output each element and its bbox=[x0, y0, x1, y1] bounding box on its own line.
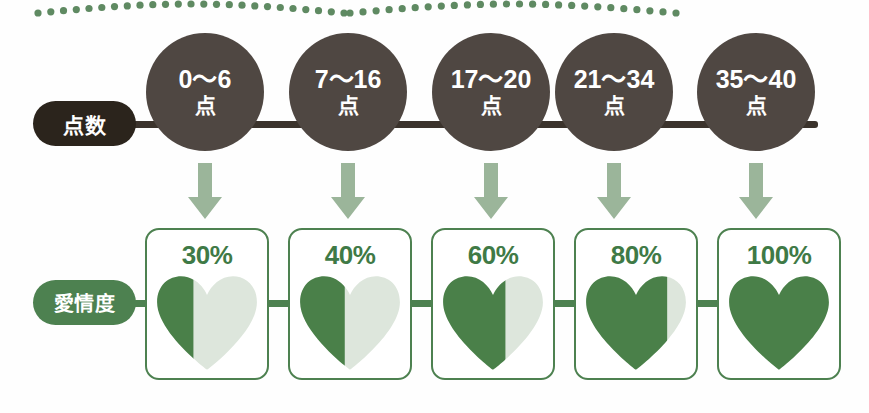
score-bucket-3[interactable]: 17〜20 点 bbox=[432, 33, 550, 151]
score-bucket-3-range: 17〜20 bbox=[451, 66, 532, 92]
love-card-5-percent: 100% bbox=[747, 242, 812, 268]
down-arrow-1 bbox=[188, 163, 222, 219]
love-card-2[interactable]: 40% bbox=[288, 228, 412, 380]
score-bucket-1-range: 0〜6 bbox=[179, 66, 232, 92]
down-arrow-3 bbox=[474, 163, 508, 219]
love-card-3-percent: 60% bbox=[468, 242, 519, 268]
down-arrow-5 bbox=[739, 163, 773, 219]
score-bucket-2-range: 7〜16 bbox=[315, 66, 382, 92]
love-card-4[interactable]: 80% bbox=[574, 228, 698, 380]
score-bucket-3-unit: 点 bbox=[481, 93, 502, 118]
love-card-1[interactable]: 30% bbox=[145, 228, 269, 380]
score-bucket-1[interactable]: 0〜6 点 bbox=[146, 33, 264, 151]
down-arrow-4 bbox=[597, 163, 631, 219]
love-row-label: 愛情度 bbox=[33, 280, 136, 325]
score-row: 点数 0〜6 点 7〜16 点 17〜20 点 21〜34 点 35〜40 点 bbox=[0, 33, 869, 151]
down-arrow-2 bbox=[331, 163, 365, 219]
score-bucket-5-range: 35〜40 bbox=[716, 66, 797, 92]
score-row-label-text: 点数 bbox=[63, 109, 107, 139]
heart-icon-4 bbox=[584, 274, 688, 370]
love-card-3[interactable]: 60% bbox=[431, 228, 555, 380]
love-row-label-text: 愛情度 bbox=[54, 288, 116, 317]
love-row: 愛情度 30% 40% bbox=[0, 228, 869, 380]
heart-icon-2 bbox=[298, 274, 402, 370]
dotted-arc-left bbox=[0, 0, 869, 26]
score-bucket-4-unit: 点 bbox=[604, 93, 625, 118]
score-bucket-5[interactable]: 35〜40 点 bbox=[697, 33, 815, 151]
score-bucket-4-range: 21〜34 bbox=[574, 66, 655, 92]
love-card-4-percent: 80% bbox=[611, 242, 662, 268]
love-card-1-percent: 30% bbox=[182, 242, 233, 268]
infographic-root: 点数 0〜6 点 7〜16 点 17〜20 点 21〜34 点 35〜40 点 bbox=[0, 0, 869, 413]
score-bucket-5-unit: 点 bbox=[746, 93, 767, 118]
score-bucket-1-unit: 点 bbox=[195, 93, 216, 118]
score-bucket-2-unit: 点 bbox=[338, 93, 359, 118]
heart-icon-5 bbox=[727, 274, 831, 370]
heart-icon-3 bbox=[441, 274, 545, 370]
score-bucket-2[interactable]: 7〜16 点 bbox=[289, 33, 407, 151]
love-card-2-percent: 40% bbox=[325, 242, 376, 268]
score-row-label: 点数 bbox=[33, 101, 136, 146]
heart-icon-1 bbox=[155, 274, 259, 370]
love-card-5[interactable]: 100% bbox=[717, 228, 841, 380]
score-bucket-4[interactable]: 21〜34 点 bbox=[555, 33, 673, 151]
